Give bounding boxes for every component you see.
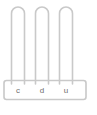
prong-tens xyxy=(36,7,49,84)
prong-hundreds xyxy=(12,7,25,84)
prong-units xyxy=(60,7,73,84)
column-label-tens: d xyxy=(40,86,44,95)
abacus-figure: c d u xyxy=(0,0,97,115)
column-label-hundreds: c xyxy=(16,86,20,95)
caption-strip xyxy=(0,104,97,115)
abacus-drawing: c d u xyxy=(0,0,97,103)
column-label-units: u xyxy=(64,86,68,95)
